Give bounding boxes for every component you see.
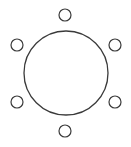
- seats-group: [11, 9, 121, 137]
- table-circle: [24, 31, 108, 115]
- seat-lower-right-circle: [109, 96, 121, 108]
- seat-upper-right-circle: [109, 39, 121, 51]
- seat-bottom-circle: [59, 125, 71, 137]
- diagram-svg: [0, 0, 131, 147]
- seat-upper-left-circle: [11, 39, 23, 51]
- seat-top-circle: [59, 9, 71, 21]
- round-table-diagram: [0, 0, 131, 147]
- seat-lower-left-circle: [11, 96, 23, 108]
